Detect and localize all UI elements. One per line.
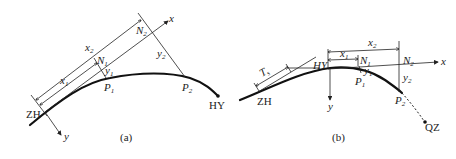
figure-a: x y x2 x1 N2 N1 y2 y1 P1 P2 ZH HY (a) [26,12,225,144]
x1-label-b: x1 [339,47,348,61]
x-axis-label-b: x [440,55,446,67]
zh-label-a: ZH [26,108,41,120]
x-axis-label-a: x [168,12,174,24]
caption-b: (b) [332,131,345,144]
n2-label-a: N2 [135,24,147,38]
hy-label-a: HY [209,99,225,111]
hy-label-b: HY [312,59,329,71]
zh-label-b: ZH [257,95,272,107]
x1-dimension-b [328,59,358,60]
y1-label-a: y1 [104,64,113,78]
n2-label-b: N2 [402,54,414,68]
x-axis-b [328,62,438,69]
qz-label-b: QZ [425,121,440,133]
curve-setting-diagram: x y x2 x1 N2 N1 y2 y1 P1 P2 ZH HY (a) [0,0,456,159]
x2-dimension-b [328,49,399,52]
p2-label-b: P2 [394,94,406,108]
curve-dashed-b [402,93,424,121]
p1-label-b: P1 [354,75,365,89]
p2-label-a: P2 [181,81,193,95]
y-axis-label-a: y [63,130,69,142]
hy-point-a [216,94,220,98]
p1-label-a: P1 [103,81,114,95]
y-axis-a [45,112,61,135]
y-axis-label-b: y [327,100,333,112]
y2-label-b: y2 [402,71,412,85]
caption-a: (a) [120,131,133,144]
x2-label-b: x2 [367,36,377,50]
x2-dimension-a [36,20,141,100]
transition-curve-a [30,74,218,126]
figure-b: x y Ts x2 x1 N1 N2 y1 y2 P1 P2 ZH HY QZ … [240,36,446,144]
n2-p2-line-a [138,13,185,77]
x2-label-a: x2 [84,41,94,55]
